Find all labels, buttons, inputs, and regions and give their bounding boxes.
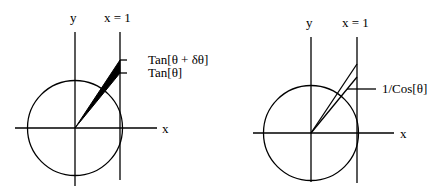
wedge <box>75 60 120 128</box>
left-diagram <box>15 32 157 186</box>
left-line-label: x = 1 <box>104 10 131 25</box>
figure: y x = 1 x Tan[θ + δθ] Tan[θ] y x = 1 x 1… <box>0 0 447 192</box>
left-y-label: y <box>70 10 77 25</box>
right-line-label: x = 1 <box>342 15 369 30</box>
right-x-label: x <box>400 126 407 141</box>
label-one-over-cos-theta: 1/Cos[θ] <box>382 81 427 96</box>
right-y-label: y <box>306 15 313 30</box>
label-tan-theta: Tan[θ] <box>148 65 182 80</box>
left-x-label: x <box>162 121 169 136</box>
ray-theta-plus <box>311 64 357 133</box>
right-diagram <box>253 37 394 183</box>
